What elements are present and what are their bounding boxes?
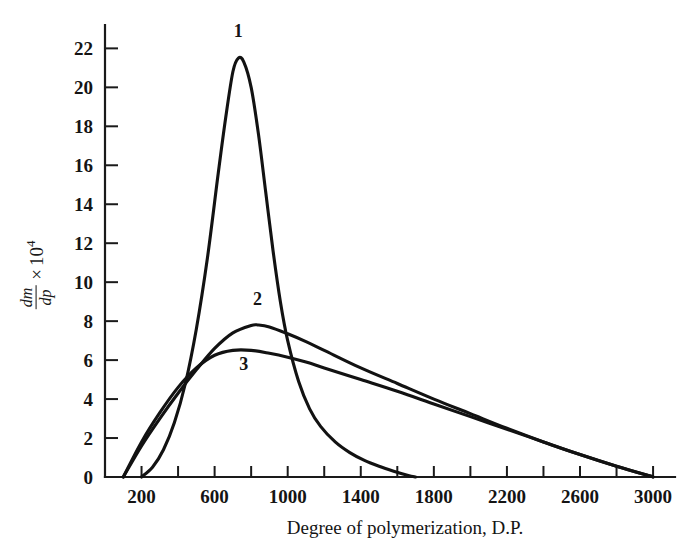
chart-canvas: 200600100014001800220026003000 024681012…: [0, 0, 695, 550]
x-tick-label: 2200: [488, 486, 526, 507]
y-tick-label: 12: [74, 233, 93, 254]
data-curve-2: [123, 325, 653, 477]
y-tick-label: 10: [74, 272, 93, 293]
y-axis-ticks: [105, 48, 118, 477]
data-curve-3: [123, 350, 653, 477]
y-tick-label: 2: [84, 428, 94, 449]
y-tick-label: 18: [74, 116, 93, 137]
chart-figure: 200600100014001800220026003000 024681012…: [0, 0, 695, 550]
y-tick-label: 14: [74, 194, 94, 215]
y-tick-label: 6: [84, 350, 94, 371]
x-axis-title: Degree of polymerization, D.P.: [287, 517, 523, 538]
curve-label-2: 2: [253, 289, 262, 309]
x-tick-label: 1800: [415, 486, 453, 507]
x-tick-label: 1400: [342, 486, 380, 507]
curve-label-1: 1: [234, 21, 243, 41]
data-curves: [123, 57, 653, 477]
y-tick-label: 20: [74, 77, 93, 98]
x-tick-label: 200: [127, 486, 156, 507]
x-tick-label: 1000: [269, 486, 307, 507]
y-tick-label: 22: [74, 38, 93, 59]
x-tick-label: 2600: [561, 486, 599, 507]
x-tick-label: 600: [200, 486, 229, 507]
y-axis-tick-labels: 0246810121416182022: [74, 38, 94, 488]
curve-label-3: 3: [239, 354, 248, 374]
data-curve-1: [142, 57, 416, 477]
y-tick-label: 4: [84, 389, 94, 410]
x-axis-tick-labels: 200600100014001800220026003000: [127, 486, 672, 507]
y-tick-label: 8: [84, 311, 94, 332]
y-tick-label: 0: [84, 467, 94, 488]
axis-lines: [105, 25, 675, 477]
y-tick-label: 16: [74, 155, 93, 176]
x-tick-label: 3000: [634, 486, 672, 507]
